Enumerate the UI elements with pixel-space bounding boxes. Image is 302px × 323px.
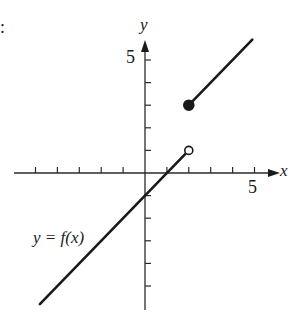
- x-tick-label-5: 5: [248, 178, 257, 196]
- function-label: y = f(x): [33, 229, 84, 246]
- open-endpoint-marker: [185, 146, 193, 154]
- y-axis-label: y: [140, 16, 148, 33]
- corner-mark: :: [0, 18, 5, 36]
- endpoint-markers: [184, 100, 194, 154]
- function-segment-2: [189, 40, 253, 106]
- x-axis-label: x: [280, 162, 288, 179]
- function-graph: [0, 0, 302, 323]
- function-pieces: [40, 40, 252, 304]
- closed-endpoint-marker: [184, 100, 194, 110]
- y-tick-label-5: 5: [126, 48, 135, 66]
- y-axis-arrow-icon: [141, 40, 149, 52]
- axes: [14, 50, 272, 310]
- x-axis-arrow-icon: [268, 169, 280, 177]
